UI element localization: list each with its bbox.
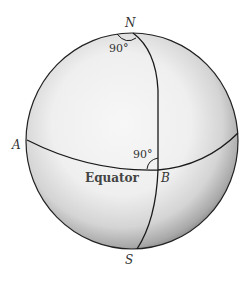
label-equator: Equator bbox=[85, 172, 139, 184]
label-point-a: A bbox=[12, 139, 21, 151]
sphere bbox=[26, 33, 238, 249]
label-north: N bbox=[125, 17, 136, 29]
label-south: S bbox=[125, 254, 133, 266]
label-angle-b: 90° bbox=[133, 149, 153, 160]
label-angle-north: 90° bbox=[109, 43, 129, 54]
label-point-b: B bbox=[161, 172, 170, 184]
sphere-diagram: N 90° A 90° B Equator S bbox=[0, 0, 251, 282]
